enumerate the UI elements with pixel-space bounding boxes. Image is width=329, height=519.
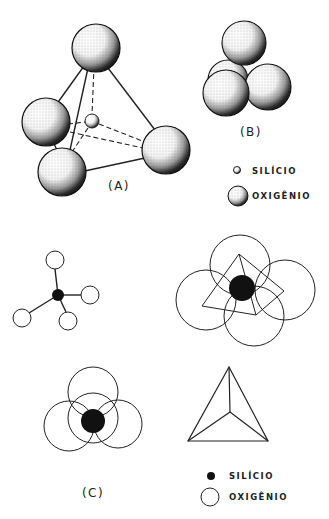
panel-a-tetrahedron: (A) [22, 24, 190, 196]
legend-silicon-label: SILÍCIO [252, 165, 297, 176]
oxygen-legend-icon [201, 488, 219, 506]
panel-c-ball-stick [13, 251, 99, 330]
oxygen-sphere-top [72, 24, 120, 72]
legend-silicon-label: SILÍCIO [229, 470, 274, 481]
legend-oxygen-label: OXIGÊNIO [229, 491, 288, 502]
tetrahedron-edge [229, 367, 230, 412]
oxygen-sphere-right [245, 64, 291, 110]
silicon-atom [81, 409, 105, 433]
silicon-atom [229, 275, 255, 301]
oxygen-sphere-top [222, 21, 266, 65]
tetrahedron-outline [188, 367, 268, 441]
oxygen-atom [13, 309, 31, 327]
silicon-legend-icon [234, 167, 241, 174]
legend-oxygen-label: OXIGÊNIO [252, 190, 311, 201]
oxygen-sphere-right [142, 126, 190, 174]
oxygen-atom [59, 312, 77, 330]
silicon-atom [85, 114, 99, 128]
tetrahedron-edge [188, 412, 230, 441]
oxygen-sphere-front [203, 70, 249, 116]
legend-bottom: SILÍCIO OXIGÊNIO [201, 470, 288, 506]
oxygen-sphere-left [22, 98, 70, 146]
panel-b-label: (B) [240, 125, 262, 139]
oxygen-legend-icon [228, 186, 248, 206]
oxygen-sphere-front [38, 148, 86, 196]
silicon-atom [52, 289, 64, 301]
silicon-legend-icon [207, 472, 215, 480]
bond-edge [108, 68, 155, 130]
legend-top: SILÍCIO OXIGÊNIO [228, 165, 311, 206]
silicate-tetrahedron-diagram: (A) (B) SILÍCIO OXIGÊNIO [0, 0, 329, 519]
hidden-bond [70, 132, 143, 148]
hidden-bond [99, 124, 145, 142]
panel-c-tetrahedron [188, 367, 268, 441]
panel-a-label: (A) [108, 179, 130, 193]
tetrahedron-edge [230, 412, 268, 441]
hidden-bond [92, 66, 94, 115]
oxygen-atom [255, 260, 315, 320]
bond-edge [56, 66, 84, 105]
panel-c-space-filling [176, 235, 315, 346]
bond-edge [70, 68, 88, 150]
panel-c-label: (C) [82, 486, 104, 500]
oxygen-atom [46, 251, 64, 269]
panel-c-top-view: (C) [44, 367, 142, 500]
hidden-bond [68, 122, 86, 124]
panel-b-cluster: (B) [203, 21, 291, 139]
oxygen-atom [81, 286, 99, 304]
bond-edge [80, 158, 145, 172]
